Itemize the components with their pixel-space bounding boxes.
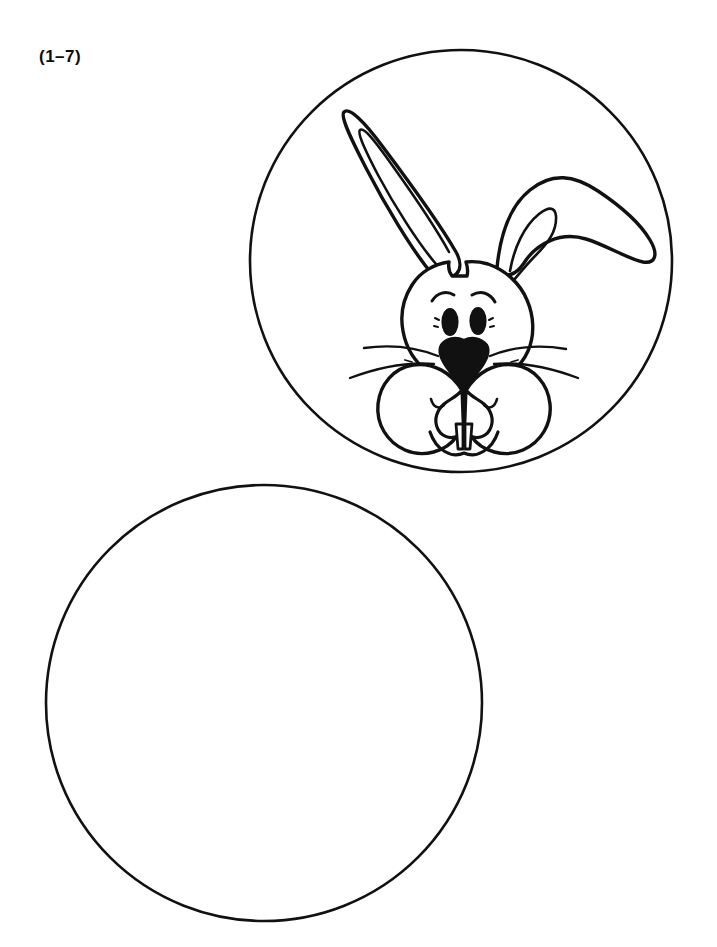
worksheet-page: (1–7) xyxy=(0,0,717,947)
rabbit-right-tooth xyxy=(465,424,472,449)
rabbit-left-eye xyxy=(443,309,458,335)
bunny-circle-figure xyxy=(250,50,672,472)
rabbit-right-eye xyxy=(471,308,486,334)
illustration-artboard xyxy=(0,0,717,947)
rabbit-left-tooth xyxy=(456,424,463,449)
empty-circle-outline xyxy=(46,485,482,921)
empty-circle-figure xyxy=(46,485,482,921)
